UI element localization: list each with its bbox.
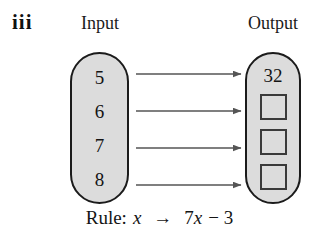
question-part-label: iii	[12, 12, 33, 33]
rule-expression-variable: x	[194, 207, 202, 228]
output-column-heading: Output	[228, 14, 318, 32]
rule-input-variable: x	[133, 207, 141, 228]
function-machine-figure: iii Input Output 5 6 7 8 32	[0, 0, 319, 242]
input-value: 5	[95, 68, 105, 87]
rule-arrow-glyph: →	[153, 207, 172, 228]
output-answer-box[interactable]	[260, 94, 287, 120]
output-value-stack: 32	[247, 54, 299, 202]
input-value: 7	[95, 136, 105, 155]
input-value: 6	[95, 102, 105, 121]
rule-constant: − 3	[208, 207, 233, 228]
rule-caption: Rule:x→7x− 3	[0, 208, 319, 227]
output-capsule: 32	[245, 52, 301, 204]
input-value: 8	[95, 170, 105, 189]
output-value: 32	[264, 66, 283, 85]
output-answer-box[interactable]	[260, 129, 287, 155]
rule-coefficient: 7	[184, 207, 194, 228]
input-value-stack: 5 6 7 8	[72, 54, 127, 202]
output-answer-box[interactable]	[260, 164, 287, 190]
input-capsule: 5 6 7 8	[70, 52, 129, 204]
rule-prefix: Rule:	[86, 207, 127, 228]
input-column-heading: Input	[60, 14, 140, 32]
